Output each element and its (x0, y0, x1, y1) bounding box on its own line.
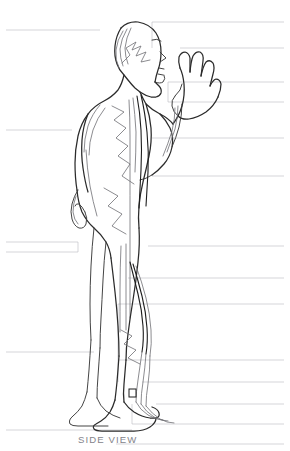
anatomy-diagram: SIDE VIEW (0, 0, 290, 451)
body-figure-illustration (0, 0, 290, 451)
human-side-view-figure (69, 22, 221, 431)
view-caption: SIDE VIEW (78, 434, 137, 445)
leader-lines-group (6, 22, 284, 444)
